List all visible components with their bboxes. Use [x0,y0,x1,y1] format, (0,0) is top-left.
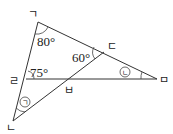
segment-giyeok-mieum [38,22,157,79]
unknown-angle-giyeok: ㄱ [22,99,28,107]
unknown-angle-nieun: ㄴ [122,69,128,77]
angle-value-rieul: 75° [30,65,48,80]
angle-value-digeut: 60° [72,50,90,65]
geometry-diagram: ㄱ ㄴ ㄷ ㄹ ㅁ ㅂ 80° 75° 60° ㄱ ㄴ [0,0,173,134]
segment-nieun-digeut [13,52,104,121]
angle-value-giyeok: 80° [37,34,55,49]
label-point-nieun: ㄴ [6,122,16,134]
label-point-mieum: ㅁ [159,74,169,87]
label-point-bieup: ㅂ [64,84,74,97]
angle-arc-mieum [141,72,142,79]
angle-arc-nieun [16,108,25,112]
label-point-rieul: ㄹ [9,75,19,88]
label-point-digeut: ㄷ [107,40,117,53]
label-point-giyeok: ㄱ [28,8,38,21]
